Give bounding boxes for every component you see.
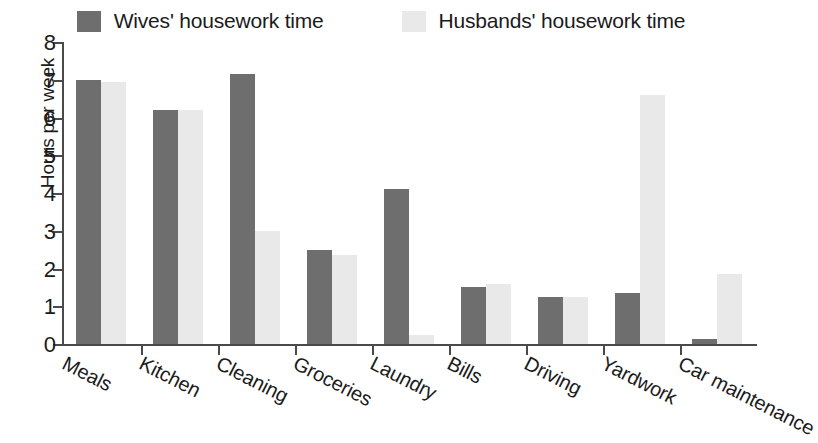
y-axis-tick-label: 3 [44,221,56,243]
bar-wives [461,287,486,344]
bar-husbands [717,274,742,344]
legend-entry-wives: Wives' housework time [77,9,324,33]
y-axis-tick-label: 5 [44,145,56,167]
bar-husbands [486,284,511,344]
bar-wives [230,74,255,344]
y-axis-tick-label: 0 [44,334,56,356]
x-axis-label-car-maintenance: Car maintenance [675,352,818,440]
legend-swatch-husbands-icon [402,11,426,32]
legend-label-wives: Wives' housework time [114,9,324,33]
y-axis-tick-label: 4 [44,183,56,205]
x-axis-tick [218,346,220,355]
y-axis-tick-label: 7 [44,70,56,92]
x-axis-tick [141,346,143,355]
x-axis-tick [372,346,374,355]
legend-label-husbands: Husbands' housework time [439,9,686,33]
bar-husbands [563,297,588,344]
y-axis-tick-label: 8 [44,32,56,54]
bar-wives [692,339,717,344]
x-axis-tick [603,346,605,355]
y-axis-line [62,42,64,346]
bar-husbands [101,82,126,344]
y-axis-tick-label: 1 [44,296,56,318]
x-axis-tick [680,346,682,355]
x-axis-label-groceries: Groceries [290,352,376,411]
plot-area: 012345678 [62,42,757,346]
legend-swatch-wives-icon [77,11,101,32]
y-axis-tick-label: 6 [44,108,56,130]
x-axis-tick [449,346,451,355]
bar-husbands [332,255,357,344]
bar-wives [538,297,563,344]
x-axis-label-laundry: Laundry [367,352,441,405]
chart-legend: Wives' housework time Husbands' housewor… [0,4,762,38]
bar-husbands [640,95,665,344]
bar-wives [384,189,409,344]
bar-husbands [255,231,280,344]
bar-wives [153,110,178,344]
x-axis-label-yardwork: Yardwork [598,352,681,409]
bar-wives [307,250,332,344]
x-axis-label-driving: Driving [521,352,586,400]
x-axis-tick [526,346,528,355]
bar-wives [615,293,640,344]
bar-husbands [409,335,434,344]
x-axis-tick [295,346,297,355]
legend-entry-husbands: Husbands' housework time [402,9,686,33]
x-axis-line [62,344,757,346]
bar-wives [76,80,101,344]
x-axis-label-cleaning: Cleaning [213,352,292,408]
x-axis-label-meals: Meals [59,352,116,396]
bar-husbands [178,110,203,344]
y-axis-tick-label: 2 [44,259,56,281]
x-axis-label-bills: Bills [444,352,486,389]
x-axis-label-kitchen: Kitchen [136,352,205,402]
